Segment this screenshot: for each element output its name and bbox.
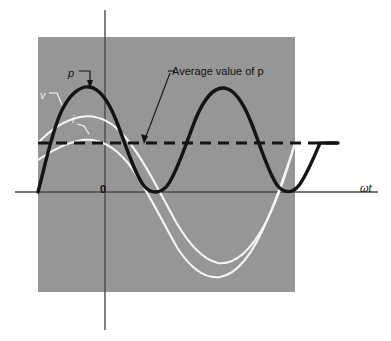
- waveform-plot: [0, 0, 391, 341]
- voltage-curve-label: v: [40, 90, 46, 101]
- current-curve-label: i: [72, 114, 74, 125]
- power-curve-label: p: [68, 68, 74, 79]
- average-value-annotation: Average value of p: [172, 66, 264, 77]
- power-waveform-figure: p v i Average value of p 0 ωt: [0, 0, 391, 341]
- origin-label: 0: [100, 184, 106, 195]
- x-axis-label: ωt: [360, 183, 372, 194]
